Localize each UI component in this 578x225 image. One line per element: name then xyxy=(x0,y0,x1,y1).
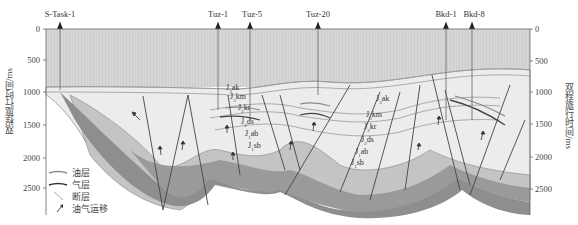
right-tick-1500: 1500 xyxy=(535,119,552,129)
legend-item-migration: 油气运移 xyxy=(48,202,108,214)
gas-layer-icon xyxy=(48,180,68,188)
left-tick-2000: 2000 xyxy=(0,153,40,163)
well-label-bkd-1: Bkd-1 xyxy=(435,9,456,19)
formation-label-j3ak-east: J3ak xyxy=(376,94,389,105)
right-tick-500: 500 xyxy=(535,56,548,66)
left-tick-2500: 2500 xyxy=(0,183,40,193)
formation-label-j2kr-west: J2kr xyxy=(238,103,250,114)
legend-label-migration: 油气运移 xyxy=(72,202,108,215)
formation-label-j1ab-west: J1ab xyxy=(245,129,258,140)
legend-item-fault: 断层 xyxy=(48,190,108,202)
left-tick-0: 0 xyxy=(0,24,40,34)
formation-label-j2kr-east: J2kr xyxy=(364,122,376,133)
well-label-tuz-5: Tuz-5 xyxy=(242,9,262,19)
fault-icon xyxy=(48,192,68,200)
well-label-bkd-8: Bkd-8 xyxy=(463,9,484,19)
legend: 油层 气层 断层 油气运移 xyxy=(48,166,108,214)
formation-label-j3km-west: J3km xyxy=(230,92,246,103)
well-label-tuz-20: Tuz-20 xyxy=(306,9,330,19)
formation-label-j3km-east: J3km xyxy=(366,110,382,121)
right-tick-0: 0 xyxy=(535,24,539,34)
migration-arrow-icon xyxy=(48,204,68,212)
right-axis-label: 双程旅行时间/ms xyxy=(563,82,576,149)
formation-label-j2ds-west: J2ds xyxy=(241,117,254,128)
formation-label-j1sb-east: J1sb xyxy=(351,158,364,169)
legend-item-gas-layer: 气层 xyxy=(48,178,108,190)
right-tick-2000: 2000 xyxy=(535,152,552,162)
formation-label-j1ab-east: J1ab xyxy=(355,147,368,158)
left-axis-label: 双程旅行时间/ms xyxy=(2,68,15,135)
right-tick-1000: 1000 xyxy=(535,87,552,97)
well-label-s-task-1: S-Task-1 xyxy=(45,9,76,19)
left-tick-500: 500 xyxy=(0,55,40,65)
formation-label-j2ds-east: J2ds xyxy=(361,135,374,146)
right-tick-2500: 2500 xyxy=(535,184,552,194)
legend-item-oil-layer: 油层 xyxy=(48,166,108,178)
oil-layer-icon xyxy=(48,168,68,176)
well-markers xyxy=(57,22,475,29)
well-label-tuz-1: Tuz-1 xyxy=(208,9,228,19)
formation-label-j1sb-west: J1sb xyxy=(248,141,261,152)
